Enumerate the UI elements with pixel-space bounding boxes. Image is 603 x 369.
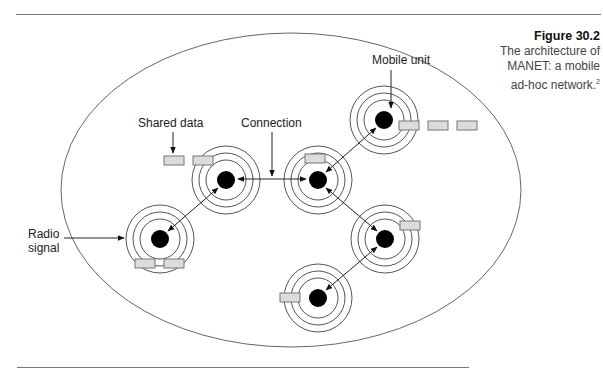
connection-label: Connection xyxy=(241,116,302,130)
caption-line-2: MANET: a mobile xyxy=(470,59,600,74)
radio-signal-line1: Radio xyxy=(28,227,59,241)
mobile-unit-dot xyxy=(376,230,394,248)
footnote-marker: 2 xyxy=(596,78,600,85)
radio-signal-line2: signal xyxy=(28,241,59,255)
shared-data-box xyxy=(164,259,184,268)
shared-data-box xyxy=(193,156,213,165)
shared-data-box xyxy=(457,121,477,130)
shared-data-box xyxy=(428,121,448,130)
figure-caption: Figure 30.2 The architecture of MANET: a… xyxy=(470,29,600,93)
shared-data-box xyxy=(400,221,420,230)
connection-b-e xyxy=(326,188,377,231)
radio-signal-label: Radio signal xyxy=(28,227,59,255)
connection-e-f xyxy=(326,247,377,290)
shared-data-label: Shared data xyxy=(138,116,203,130)
mobile-node-e xyxy=(351,205,419,273)
caption-line-1: The architecture of xyxy=(470,44,600,59)
mobile-unit-dot xyxy=(309,289,327,307)
caption-line-3: ad-hoc network.2 xyxy=(470,74,600,93)
shared-data-box xyxy=(305,154,325,163)
shared-data-box xyxy=(280,293,300,302)
mobile-unit-dot xyxy=(151,230,169,248)
mobile-unit-dot xyxy=(309,171,327,189)
mobile-node-c xyxy=(350,86,418,154)
shared-data-box xyxy=(164,156,184,165)
mobile-unit-label: Mobile unit xyxy=(372,53,430,67)
mobile-unit-dot xyxy=(217,171,235,189)
caption-line-3-text: ad-hoc network. xyxy=(511,78,596,92)
figure-number: Figure 30.2 xyxy=(470,29,600,44)
shared-data-box xyxy=(135,259,155,268)
mobile-unit-dot xyxy=(375,111,393,129)
connection-a-d xyxy=(168,188,218,231)
shared-data-box xyxy=(399,121,419,130)
